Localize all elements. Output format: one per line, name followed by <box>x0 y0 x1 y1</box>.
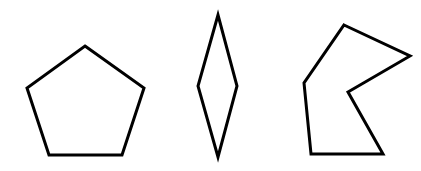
shapes-diagram <box>0 0 421 171</box>
